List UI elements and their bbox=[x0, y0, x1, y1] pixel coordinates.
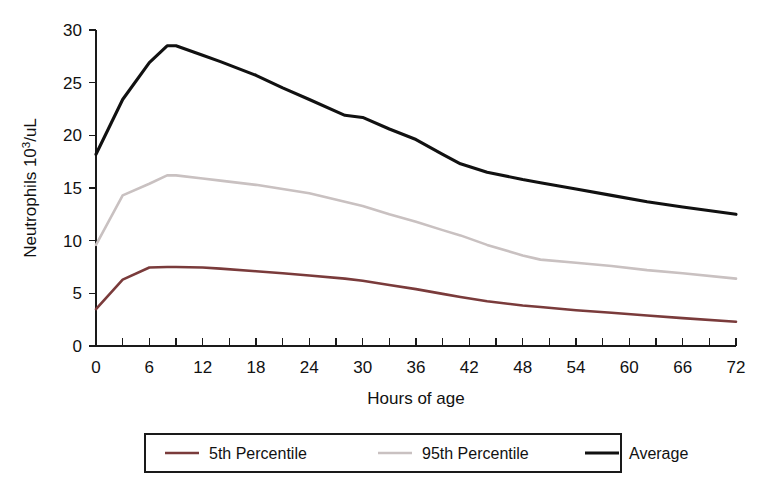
x-tick-label: 30 bbox=[353, 358, 372, 377]
axes-group: 051015202530 061218243036424854606672 bbox=[63, 21, 745, 377]
chart-legend: 5th Percentile95th PercentileAverage bbox=[145, 434, 688, 472]
x-tick-label: 6 bbox=[145, 358, 154, 377]
x-tick-label: 36 bbox=[407, 358, 426, 377]
y-tick-label: 0 bbox=[73, 337, 82, 356]
x-tick-label: 24 bbox=[300, 358, 319, 377]
y-tick-label: 10 bbox=[63, 232, 82, 251]
x-axis-ticks bbox=[96, 338, 736, 346]
x-axis-title: Hours of age bbox=[367, 389, 464, 408]
y-tick-label: 30 bbox=[63, 21, 82, 40]
x-tick-label: 72 bbox=[727, 358, 746, 377]
x-tick-label: 0 bbox=[91, 358, 100, 377]
y-tick-label: 15 bbox=[63, 179, 82, 198]
series-line bbox=[96, 46, 736, 215]
y-axis-ticks bbox=[89, 30, 96, 346]
chart-svg: 051015202530 061218243036424854606672 Ho… bbox=[0, 0, 764, 482]
data-series-group bbox=[96, 46, 736, 322]
legend-label: Average bbox=[629, 445, 688, 462]
x-tick-label: 54 bbox=[567, 358, 586, 377]
x-tick-label: 66 bbox=[673, 358, 692, 377]
x-tick-label: 48 bbox=[513, 358, 532, 377]
series-line bbox=[96, 175, 736, 278]
x-axis-tick-labels: 061218243036424854606672 bbox=[91, 358, 745, 377]
legend-label: 5th Percentile bbox=[209, 445, 307, 462]
x-tick-label: 18 bbox=[247, 358, 266, 377]
x-tick-label: 42 bbox=[460, 358, 479, 377]
x-tick-label: 60 bbox=[620, 358, 639, 377]
y-axis-title-base: Neutrophils 10 bbox=[21, 148, 40, 258]
series-line bbox=[96, 267, 736, 322]
legend-label: 95th Percentile bbox=[422, 445, 529, 462]
neutrophil-reference-chart: 051015202530 061218243036424854606672 Ho… bbox=[0, 0, 764, 482]
y-tick-label: 20 bbox=[63, 126, 82, 145]
x-tick-label: 12 bbox=[193, 358, 212, 377]
y-axis-tick-labels: 051015202530 bbox=[63, 21, 82, 356]
axis-lines bbox=[96, 30, 736, 346]
y-axis-title-tail: /uL bbox=[21, 118, 40, 142]
y-tick-label: 5 bbox=[73, 284, 82, 303]
y-tick-label: 25 bbox=[63, 74, 82, 93]
y-axis-title: Neutrophils 103/uL bbox=[20, 118, 40, 258]
